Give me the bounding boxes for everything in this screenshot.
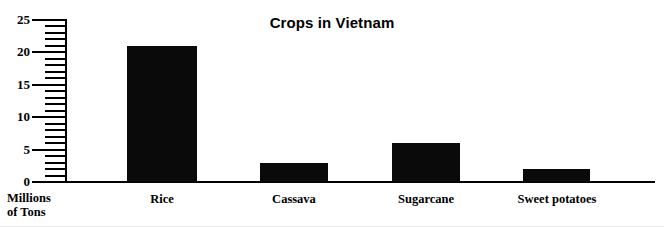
y-axis-minor-tick (45, 32, 66, 34)
y-axis-major-tick (32, 19, 66, 21)
y-axis-line (65, 19, 67, 183)
y-axis-minor-tick (45, 38, 66, 40)
y-axis-minor-tick (45, 77, 66, 79)
y-axis-minor-tick (45, 123, 66, 125)
bar-rice (127, 46, 197, 182)
y-axis-minor-tick (45, 175, 66, 177)
bottom-rule (0, 226, 664, 227)
chart-title: Crops in Vietnam (0, 14, 664, 31)
y-axis-tick-label: 20 (4, 45, 30, 58)
x-axis-category-label: Sweet potatoes (477, 192, 637, 206)
y-axis-minor-tick (45, 142, 66, 144)
y-axis-major-tick (32, 149, 66, 151)
y-axis-minor-tick (45, 162, 66, 164)
y-axis-minor-tick (45, 103, 66, 105)
y-axis-minor-tick (45, 129, 66, 131)
y-axis-minor-tick (45, 58, 66, 60)
y-axis-minor-tick (45, 90, 66, 92)
y-axis-minor-tick (45, 168, 66, 170)
y-axis-minor-tick (45, 64, 66, 66)
y-axis-tick-label: 15 (4, 78, 30, 91)
y-axis-major-tick (32, 181, 66, 183)
y-axis-minor-tick (45, 110, 66, 112)
y-axis-minor-tick (45, 25, 66, 27)
y-axis-minor-tick (45, 71, 66, 73)
y-axis-minor-tick (45, 155, 66, 157)
y-axis-tick-label: 25 (4, 13, 30, 26)
y-axis-tick-label: 0 (4, 175, 30, 188)
bar-cassava (260, 163, 328, 182)
y-axis-major-tick (32, 84, 66, 86)
y-axis-tick-label: 5 (4, 143, 30, 156)
y-axis-minor-tick (45, 97, 66, 99)
y-axis-tick-label: 10 (4, 110, 30, 123)
y-axis-major-tick (32, 51, 66, 53)
bar-sweet-potatoes (523, 169, 590, 182)
bar-sugarcane (392, 143, 460, 182)
y-axis-minor-tick (45, 136, 66, 138)
y-axis-major-tick (32, 116, 66, 118)
bar-chart: Crops in Vietnam 0510152025 Millions of … (0, 0, 664, 227)
y-axis-label: Millions of Tons (7, 191, 51, 219)
y-axis-minor-tick (45, 45, 66, 47)
